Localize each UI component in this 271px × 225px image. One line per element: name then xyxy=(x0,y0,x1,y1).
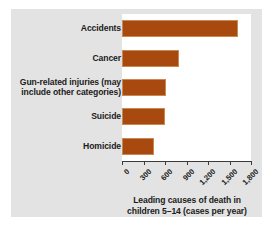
x-axis-tick xyxy=(144,161,145,165)
bar xyxy=(122,138,154,155)
category-label-line: Suicide xyxy=(5,111,121,121)
category-label-line: include other categories) xyxy=(5,87,121,97)
category-label: Gun-related injuries (mayinclude other c… xyxy=(5,77,121,97)
category-label-line: Homicide xyxy=(5,141,121,151)
category-label: Cancer xyxy=(5,53,121,63)
category-label: Accidents xyxy=(5,23,121,33)
bar xyxy=(122,79,166,96)
category-axis-labels: AccidentsCancerGun-related injuries (may… xyxy=(3,14,121,161)
category-label-line: Accidents xyxy=(5,23,121,33)
x-axis-tick xyxy=(187,161,188,165)
category-label: Homicide xyxy=(5,141,121,151)
category-label-line: Cancer xyxy=(5,53,121,63)
category-label-line: Gun-related injuries (may xyxy=(5,77,121,87)
x-axis-tick xyxy=(208,161,209,165)
category-label: Suicide xyxy=(5,111,121,121)
x-axis-tick xyxy=(122,161,123,165)
x-axis-title-line: Leading causes of death in xyxy=(113,195,261,206)
x-axis-tick xyxy=(230,161,231,165)
x-axis-tick xyxy=(165,161,166,165)
x-axis-title-line: children 5–14 (cases per year) xyxy=(113,206,261,217)
x-axis-tick xyxy=(251,161,252,165)
chart-figure: AccidentsCancerGun-related injuries (may… xyxy=(0,0,271,225)
bar xyxy=(122,50,179,67)
x-axis-title: Leading causes of death inchildren 5–14 … xyxy=(113,195,261,216)
bar xyxy=(122,108,165,125)
bar-series xyxy=(122,14,251,161)
bar xyxy=(122,20,238,37)
